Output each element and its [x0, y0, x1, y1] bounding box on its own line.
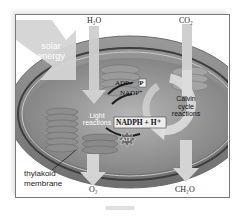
solar-label-line2: energy	[36, 52, 66, 61]
light-label-line2: reactions	[82, 119, 112, 126]
thylakoid-label-line1: thylakoid	[24, 169, 62, 179]
co2-input-arrow	[182, 24, 192, 96]
grana-stack-bottom	[82, 134, 118, 154]
co2-label: CO₂	[179, 17, 193, 25]
adp-text: ADP +	[115, 79, 136, 87]
solar-label-line1: solar	[36, 42, 66, 51]
solar-energy-label: solar energy	[36, 42, 66, 61]
light-label-line1: Light	[82, 112, 112, 119]
adp-label: ADP + P	[115, 80, 143, 87]
sugar-label: CH₂O	[175, 186, 195, 194]
phosphate-text: P	[136, 79, 143, 87]
grana-stack-left	[46, 108, 78, 152]
thylakoid-label-line2: membrane	[24, 179, 62, 189]
calvin-label-line2: cycle	[171, 103, 201, 111]
thylakoid-membrane-label: thylakoid membrane	[24, 169, 62, 188]
page-shadow	[105, 206, 135, 210]
o2-label: O₂	[89, 186, 98, 194]
water-label: H₂O	[87, 17, 101, 25]
calvin-label-line3: reactions	[171, 110, 201, 118]
calvin-cycle-label: Calvin cycle reactions	[171, 95, 201, 118]
nadp-label: NADP⁺	[120, 90, 143, 97]
calvin-label-line1: Calvin	[171, 95, 201, 103]
light-reactions-label: Light reactions	[82, 112, 112, 127]
nadph-label: NADPH + H⁺	[116, 119, 161, 127]
atp-label: ATP	[121, 136, 132, 142]
